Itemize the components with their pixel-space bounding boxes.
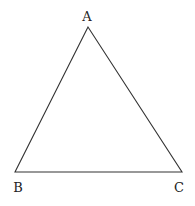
vertex-label-b: B [13, 180, 23, 195]
triangle-diagram: A B C [0, 0, 195, 206]
vertex-label-a: A [81, 9, 92, 24]
vertex-label-c: C [174, 180, 184, 195]
triangle-abc [15, 27, 182, 172]
